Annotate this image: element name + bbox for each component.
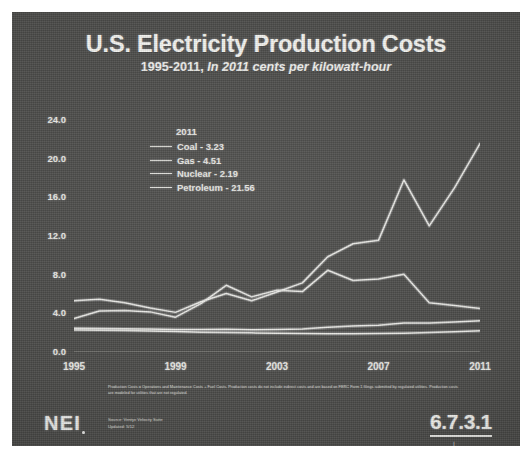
x-axis-tick-label: 2003 bbox=[247, 361, 307, 372]
y-axis-tick-label: 16.0 bbox=[26, 191, 66, 202]
nei-logo: NEI bbox=[44, 412, 85, 435]
chart-series-group bbox=[74, 144, 480, 334]
legend-item-label: Petroleum - 21.56 bbox=[177, 182, 255, 193]
legend-line-swatch bbox=[150, 173, 172, 174]
x-axis-tick-label: 2007 bbox=[349, 361, 409, 372]
y-axis-tick-label: 8.0 bbox=[26, 269, 66, 280]
legend-line-swatch bbox=[150, 146, 172, 147]
subtitle-italic: In 2011 cents per kilowatt-hour bbox=[207, 60, 391, 74]
chart-legend: 2011 Coal - 3.23Gas - 4.51Nuclear - 2.19… bbox=[150, 126, 255, 194]
nei-logo-text: NEI bbox=[44, 412, 81, 434]
legend-item-label: Gas - 4.51 bbox=[177, 155, 221, 166]
y-axis-tick-label: 20.0 bbox=[26, 153, 66, 164]
slide-mark-icon: ⊥ bbox=[450, 440, 458, 446]
chart-plot-area bbox=[74, 120, 480, 352]
source-line-2: Updated: 5/12 bbox=[108, 423, 308, 430]
subtitle-prefix: 1995-2011, bbox=[141, 60, 208, 74]
slide-number: 6.7.3.1 bbox=[430, 410, 492, 437]
page-title: U.S. Electricity Production Costs bbox=[12, 32, 520, 57]
legend-item-label: Coal - 3.23 bbox=[177, 141, 224, 152]
y-axis-tick-label: 0.0 bbox=[26, 346, 66, 357]
legend-rows: Coal - 3.23Gas - 4.51Nuclear - 2.19Petro… bbox=[150, 140, 255, 194]
slide-frame: U.S. Electricity Production Costs 1995-2… bbox=[12, 12, 520, 446]
legend-line-swatch bbox=[150, 187, 172, 188]
x-axis-tick-label: 1999 bbox=[146, 361, 206, 372]
y-axis-tick-label: 4.0 bbox=[26, 307, 66, 318]
legend-item: Petroleum - 21.56 bbox=[150, 181, 255, 195]
nei-logo-dot bbox=[82, 431, 85, 434]
y-axis-tick-label: 24.0 bbox=[26, 114, 66, 125]
x-axis-tick-label: 1995 bbox=[44, 361, 104, 372]
legend-item: Coal - 3.23 bbox=[150, 140, 255, 154]
y-axis-tick-label: 12.0 bbox=[26, 230, 66, 241]
source-text: Source: Ventyx Velocity Suite Updated: 5… bbox=[108, 416, 308, 431]
legend-item: Nuclear - 2.19 bbox=[150, 167, 255, 181]
legend-line-swatch bbox=[150, 160, 172, 161]
page-subtitle: 1995-2011, In 2011 cents per kilowatt-ho… bbox=[12, 60, 520, 74]
legend-item: Gas - 4.51 bbox=[150, 154, 255, 168]
series-line-gas bbox=[74, 270, 480, 318]
title-block: U.S. Electricity Production Costs 1995-2… bbox=[12, 32, 520, 74]
legend-title: 2011 bbox=[176, 126, 255, 137]
footnote-text: Production Costs = Operations and Mainte… bbox=[108, 384, 463, 397]
x-axis-tick-label: 2011 bbox=[450, 361, 510, 372]
series-line-glow-petroleum bbox=[74, 144, 480, 313]
chart-svg bbox=[74, 120, 480, 352]
series-line-petroleum bbox=[74, 144, 480, 313]
source-line-1: Source: Ventyx Velocity Suite bbox=[108, 416, 308, 423]
legend-item-label: Nuclear - 2.19 bbox=[177, 168, 238, 179]
